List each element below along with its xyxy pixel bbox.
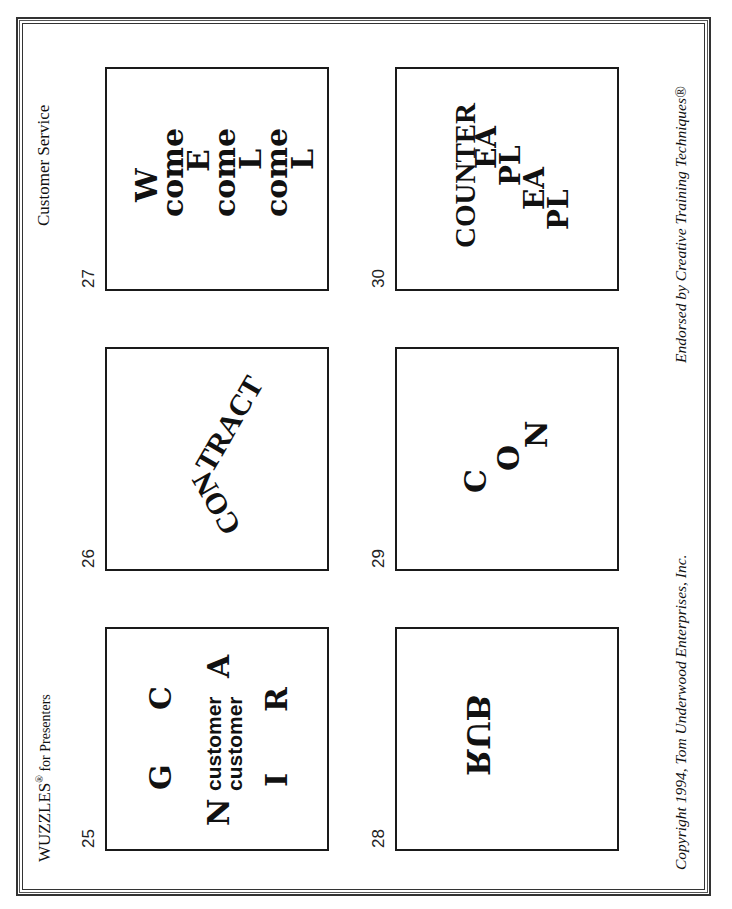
puzzle-25-letter-g: G [146,764,176,790]
title-brand: WUZZLES [35,783,54,862]
puzzle-number-26: 26 [79,549,99,568]
copyright-notice: Copyright 1994, Tom Underwood Enterprise… [672,555,690,870]
category-label: Customer Service [34,105,54,226]
puzzle-number-28: 28 [369,829,389,848]
puzzle-29-letter-n: N [522,421,552,448]
puzzle-28-word-rub-mirrored: RUB [462,694,494,776]
page-title: WUZZLES® for Presenters [34,694,55,862]
puzzle-25-letter-i: I [262,773,292,787]
puzzle-box-28 [395,627,619,851]
puzzle-29-letter-c: C [461,469,491,493]
endorsement-notice: Endorsed by Creative Training Techniques… [672,86,690,363]
puzzle-25-letter-a: A [204,655,234,678]
puzzle-30-word-counter: COUNTER [451,103,480,248]
puzzle-25-word-customer-2: customer [224,696,245,791]
puzzle-25-letter-c: C [146,686,176,710]
puzzle-27-word-come-3: come [262,128,292,217]
puzzle-25-word-customer-1: customer [203,696,224,791]
puzzle-27-word-come-2: come [210,128,240,217]
puzzle-29-letter-o: O [494,445,524,471]
puzzle-27-word-come-1: come [158,128,188,217]
puzzle-number-29: 29 [369,549,389,568]
puzzle-27-letter-l-2: L [288,149,318,170]
puzzle-number-27: 27 [79,269,99,288]
title-suffix: for Presenters [38,694,53,775]
puzzle-number-30: 30 [369,269,389,288]
puzzle-30-letters-pl-2: PL [545,189,573,230]
puzzle-25-letter-r: R [262,687,292,712]
registered-mark: ® [34,775,45,783]
puzzle-25-letter-n: N [204,799,234,826]
puzzle-number-25: 25 [79,829,99,848]
